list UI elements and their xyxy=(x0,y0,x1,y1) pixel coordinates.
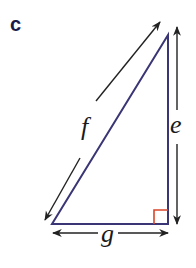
arrow-f-lower xyxy=(45,158,80,220)
side-label-g: g xyxy=(101,221,114,247)
triangle xyxy=(52,35,168,224)
right-angle-marker xyxy=(154,210,168,224)
arrow-f-upper xyxy=(96,22,160,101)
side-label-e: e xyxy=(170,112,182,138)
part-label: c xyxy=(10,14,21,34)
right-triangle-diagram xyxy=(0,0,196,268)
side-label-f: f xyxy=(81,114,88,140)
